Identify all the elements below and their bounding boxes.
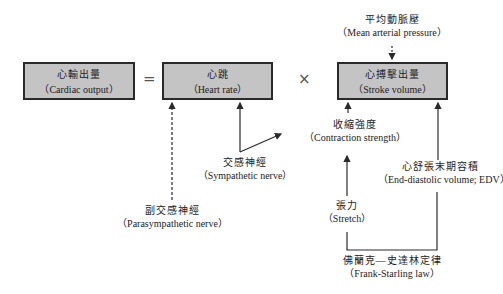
frank-starling-label: 佛蘭克—史達林定律 （Frank-Starling law） [337, 254, 447, 281]
times-sign: × [298, 70, 311, 88]
cardiac-output-box: 心輸出量 （Cardiac output） [23, 62, 135, 100]
stretch-en: （Stretch） [322, 212, 372, 226]
mean-arterial-pressure-label: 平均動脈壓 （Mean arterial pressure） [332, 13, 452, 40]
stroke-volume-en: （Stroke volume） [339, 84, 446, 96]
frank-starling-zh: 佛蘭克—史達林定律 [337, 254, 447, 267]
parasympathetic-zh: 副交感神經 [115, 204, 230, 217]
parasympathetic-nerve-label: 副交感神經 （Parasympathetic nerve） [115, 204, 230, 231]
sympathetic-nerve-label: 交感神經 （Sympathetic nerve） [190, 156, 300, 183]
sympathetic-zh: 交感神經 [190, 156, 300, 169]
contraction-strength-label: 收縮強度 （Contraction strength） [300, 118, 410, 145]
stretch-label: 張力 （Stretch） [322, 199, 372, 226]
stroke-volume-zh: 心搏擊出量 [339, 69, 446, 81]
edv-en: （End-diastolic volume; EDV） [378, 173, 503, 187]
sympathetic-to-contraction-arrow [240, 134, 281, 152]
equals-sign: = [143, 70, 156, 88]
edv-zh: 心舒張末期容積 [378, 160, 503, 173]
cardiac-output-zh: 心輸出量 [25, 69, 133, 81]
map-zh: 平均動脈壓 [332, 13, 452, 26]
contraction-en: （Contraction strength） [300, 131, 410, 145]
stretch-zh: 張力 [322, 199, 372, 212]
stroke-volume-box: 心搏擊出量 （Stroke volume） [337, 62, 448, 100]
cardiac-output-en: （Cardiac output） [25, 84, 133, 96]
heart-rate-zh: 心跳 [164, 69, 271, 81]
heart-rate-en: （Heart rate） [164, 84, 271, 96]
contraction-zh: 收縮強度 [300, 118, 410, 131]
end-diastolic-volume-label: 心舒張末期容積 （End-diastolic volume; EDV） [378, 160, 503, 187]
parasympathetic-en: （Parasympathetic nerve） [115, 217, 230, 231]
frank-starling-en: （Frank-Starling law） [337, 267, 447, 281]
sympathetic-en: （Sympathetic nerve） [190, 169, 300, 183]
connector-lines [0, 0, 503, 294]
heart-rate-box: 心跳 （Heart rate） [162, 62, 273, 100]
map-en: （Mean arterial pressure） [332, 26, 452, 40]
